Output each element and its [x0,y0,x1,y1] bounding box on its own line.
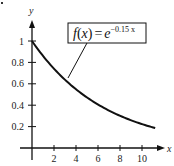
y-tick-label: 0.2 [12,121,25,132]
y-axis-label: y [28,5,34,16]
exponential-decay-chart: 2468100.20.40.60.81 f(x)=e−0.15 x x y [0,0,174,166]
function-curve [32,41,155,128]
y-tick-label: 0.8 [12,57,25,68]
x-tick-label: 10 [137,153,147,164]
callout-pointer-line [68,43,87,78]
y-tick-label: 1 [19,36,24,47]
y-tick-label: 0.6 [12,78,25,89]
y-tick-label: 0.4 [12,100,25,111]
y-axis-arrow-icon [29,20,35,28]
x-tick-label: 4 [74,153,79,164]
x-tick-label: 8 [118,153,123,164]
x-axis-label: x [166,143,172,154]
x-axis-arrow-icon [157,145,165,151]
x-tick-label: 6 [96,153,101,164]
x-tick-label: 2 [52,153,57,164]
